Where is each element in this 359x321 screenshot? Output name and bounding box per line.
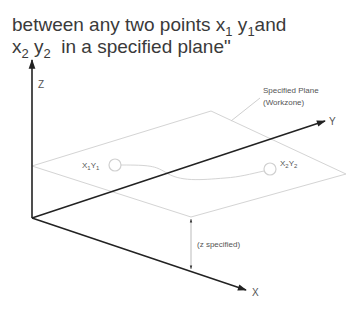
plane-callout-leader (231, 98, 260, 121)
y-axis-label: Y (329, 116, 336, 127)
point-1-marker (109, 159, 121, 171)
workzone-plane (32, 111, 346, 217)
path-curve (121, 165, 264, 180)
z-axis-label: Z (38, 79, 44, 90)
coordinate-diagram: Z Y X Specified Plane (Workzone) X1Y1 X2… (0, 0, 359, 321)
point-2-label: X2Y2 (280, 159, 298, 169)
y-axis (32, 121, 325, 218)
z-offset-label: (z specified) (197, 240, 240, 249)
x-axis (32, 218, 246, 290)
x-axis-label: X (252, 287, 259, 298)
plane-label-line1: Specified Plane (263, 86, 319, 95)
point-1-label: X1Y1 (82, 161, 100, 171)
point-2-marker (264, 163, 276, 175)
plane-label-line2: (Workzone) (263, 98, 305, 107)
